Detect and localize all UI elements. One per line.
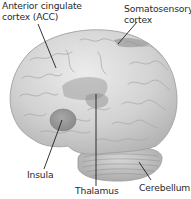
acc-label-line1: Anterior cingulate — [2, 1, 82, 12]
brain-diagram: Anterior cingulate cortex (ACC) Somatose… — [0, 0, 191, 199]
thalamus-region — [85, 93, 108, 108]
insula-region — [50, 109, 76, 131]
thalamus-label: Thalamus — [75, 186, 119, 197]
insula-label: Insula — [27, 170, 53, 181]
acc-label: Anterior cingulate cortex (ACC) — [2, 1, 82, 22]
somatosensory-label: Somatosensory cortex — [124, 4, 191, 25]
acc-label-line2: cortex (ACC) — [2, 12, 82, 23]
somatosensory-label-line1: Somatosensory — [124, 4, 191, 15]
somatosensory-label-line2: cortex — [124, 15, 191, 26]
cerebellum-label: Cerebellum — [139, 183, 190, 194]
